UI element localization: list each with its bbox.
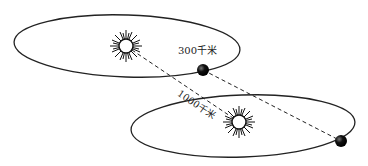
binary-orbit-diagram: 300千米 1000千米 [0, 0, 368, 166]
top-sun-icon [110, 30, 142, 62]
top-planet-icon [197, 64, 209, 76]
bottom-planet-icon [335, 135, 347, 147]
sun-to-sun-dashed-line [126, 46, 239, 122]
orbit-radius-label: 300千米 [178, 42, 217, 57]
planet-to-planet-dashed-line [203, 70, 341, 141]
bottom-sun-icon [223, 106, 255, 138]
diagram-canvas [0, 0, 368, 166]
